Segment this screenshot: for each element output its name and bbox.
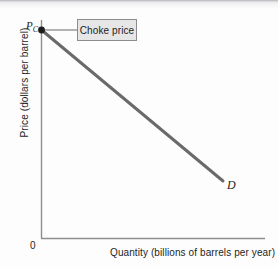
- x-axis-title: Quantity (billions of barrels per year): [110, 247, 275, 258]
- demand-curve: [42, 30, 224, 181]
- choke-price-callout-box: Choke price: [77, 19, 137, 41]
- choke-price-callout-label: Choke price: [80, 25, 134, 36]
- y-axis-title: Price (dollars per barrel): [19, 18, 30, 148]
- choke-price-point-marker: [38, 27, 45, 34]
- origin-label: 0: [30, 240, 36, 251]
- demand-curve-figure: Choke price PC D 0 Price (dollars per ba…: [0, 0, 278, 267]
- plot-area: [0, 0, 278, 267]
- choke-price-symbol-subscript: C: [33, 25, 38, 34]
- demand-curve-label: D: [227, 178, 236, 193]
